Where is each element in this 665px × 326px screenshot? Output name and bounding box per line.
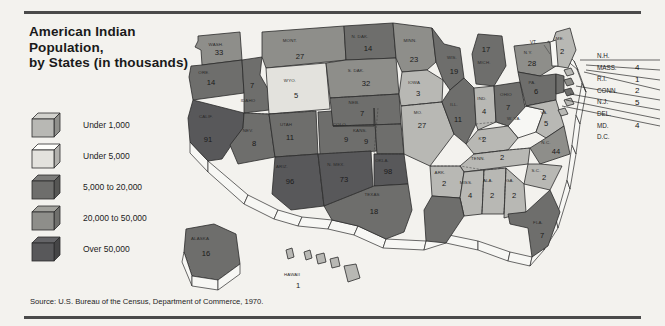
source-note: Source: U.S. Bureau of the Census, Depar… — [30, 297, 263, 306]
state-abbr-label: ARIZ. — [276, 164, 288, 169]
vt-label: VT. — [530, 40, 537, 45]
state-sdak — [326, 58, 399, 98]
state-value-label: 5 — [544, 119, 548, 128]
state-abbr-label: MONT. — [283, 38, 297, 43]
state-abbr-label: PA. — [528, 80, 535, 85]
state-abbr-label: ALA. — [483, 178, 493, 183]
state-abbr-label: CALIF. — [199, 114, 213, 119]
state-value-label: 1 — [296, 281, 300, 290]
state-abbr-label: VA. — [540, 110, 547, 115]
state-minn — [393, 23, 436, 72]
callout-state-value: 4 — [635, 63, 639, 72]
callout-state-value: 5 — [635, 98, 639, 107]
state-iowa — [399, 70, 443, 106]
callout-row: MD.4 — [597, 122, 663, 134]
legend-label: 20,000 to 50,000 — [83, 213, 147, 223]
state-value-label: 28 — [528, 59, 536, 68]
callout-row: DEL. — [597, 110, 663, 122]
state-value-label: 18 — [370, 207, 378, 216]
cube-under-5000 — [31, 143, 61, 169]
state-abbr-label: WIS. — [447, 55, 457, 60]
state-abbr-label: NEB. — [349, 100, 360, 105]
state-value-label: 7 — [250, 81, 254, 90]
state-value-label: 9 — [344, 135, 348, 144]
state-abbr-label: WYO. — [284, 78, 296, 83]
state-value-label: 2 — [542, 173, 546, 182]
cube-under-1000 — [31, 112, 61, 138]
bottom-divider — [24, 316, 641, 319]
callout-state-name: D.C. — [597, 133, 610, 140]
state-value-label: 96 — [286, 177, 294, 186]
state-abbr-label: IOWA — [408, 80, 420, 85]
state-abbr-label: S.C. — [531, 168, 540, 173]
state-abbr-label: FLA. — [533, 220, 543, 225]
legend-label: Under 1,000 — [83, 120, 130, 130]
callout-row: D.C. — [597, 133, 663, 145]
callout-state-name: N.J. — [597, 98, 608, 105]
state-abbr-label: NEV. — [243, 128, 253, 133]
callout-row: R.I.1 — [597, 75, 663, 87]
state-value-label: 23 — [410, 55, 418, 64]
state-value-label: 7 — [506, 103, 510, 112]
state-value-label: 2 — [442, 179, 446, 188]
state-abbr-label: UTAH — [280, 122, 292, 127]
us-map: .o{stroke:#2b2b2b;stroke-width:0.8;} .i{… — [178, 14, 598, 296]
state-abbr-label: GA. — [506, 178, 514, 183]
callout-state-name: R.I. — [597, 75, 607, 82]
state-value-label: 2 — [490, 191, 494, 200]
state-value-label: 4 — [468, 191, 472, 200]
state-abbr-label: MISS. — [460, 180, 473, 185]
state-abbr-label: MICH. — [477, 60, 490, 65]
state-ariz — [272, 154, 324, 210]
callout-state-value: 4 — [635, 121, 639, 130]
state-value-label: 9 — [364, 137, 368, 146]
state-abbr-label: OKLA. — [375, 158, 389, 163]
state-abbr-label: N. DAK. — [352, 34, 369, 39]
state-abbr-label: ILL. — [450, 102, 458, 107]
callout-state-value: 2 — [635, 86, 639, 95]
infographic-root: American Indian Population, by States (i… — [0, 0, 665, 326]
state-value-label: 7 — [360, 109, 364, 118]
state-value-label: 73 — [340, 175, 348, 184]
state-abbr-label: ALASKA — [191, 236, 209, 241]
state-value-label: 19 — [450, 67, 458, 76]
state-abbr-label: COLO. — [333, 122, 347, 127]
state-abbr-label: HAWAII — [284, 272, 300, 277]
state-abbr-label: N. MEX. — [327, 162, 344, 167]
state-value-label: 8 — [252, 139, 256, 148]
callout-state-name: MASS. — [597, 64, 617, 71]
state-value-label: 3 — [416, 89, 420, 98]
state-value-label: 5 — [294, 91, 298, 100]
state-value-label: 14 — [207, 78, 215, 87]
state-value-label: 11 — [286, 133, 294, 142]
callout-state-value: 1 — [635, 75, 639, 84]
state-abbr-label: TENN. — [471, 156, 485, 161]
state-abbr-label: S. DAK. — [348, 68, 365, 73]
cube-5000-20000 — [31, 174, 61, 200]
state-abbr-label: MINN. — [403, 38, 416, 43]
cube-over-50000 — [31, 236, 61, 262]
callout-row: CONN.2 — [597, 87, 663, 99]
callout-list: N.H.MASS.4R.I.1CONN.2N.J.5DEL.MD.4D.C. — [597, 52, 663, 145]
callout-row: MASS.4 — [597, 64, 663, 76]
state-value-label: 4 — [482, 107, 486, 116]
state-abbr-label: WASH. — [209, 42, 224, 47]
state-value-label: 27 — [418, 121, 426, 130]
state-value-label: 2 — [482, 135, 486, 144]
state-abbr-label: W. VA. — [507, 116, 521, 121]
state-value-label: 16 — [202, 249, 210, 258]
state-value-label: 17 — [482, 45, 490, 54]
state-ore — [189, 60, 244, 100]
state-abbr-label: N.C. — [541, 140, 550, 145]
state-abbr-label: KANS. — [353, 128, 367, 133]
state-value-label: 44 — [552, 147, 560, 156]
legend-label: 5,000 to 20,000 — [83, 182, 142, 192]
legend-label: Over 50,000 — [83, 244, 130, 254]
state-value-label: 7 — [540, 231, 544, 240]
state-abbr-label: ORE. — [198, 70, 209, 75]
state-value-label: 98 — [384, 167, 392, 176]
callout-state-name: CONN. — [597, 87, 617, 94]
state-value-label: 91 — [204, 135, 212, 144]
callout-row: N.H. — [597, 52, 663, 64]
callout-row: N.J.5 — [597, 98, 663, 110]
